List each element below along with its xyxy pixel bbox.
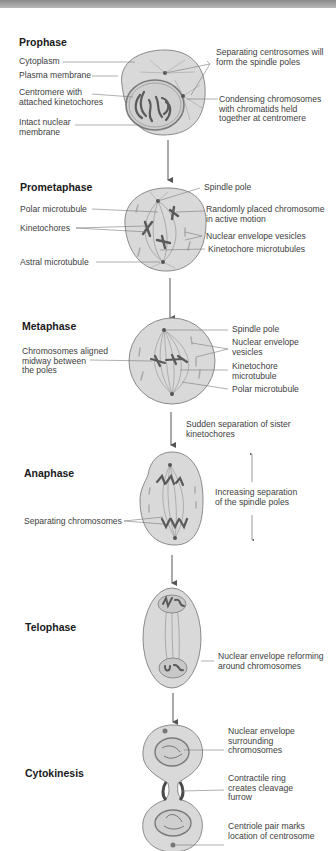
stage-title-metaphase: Metaphase bbox=[22, 320, 76, 332]
stage-title-anaphase: Anaphase bbox=[24, 467, 74, 479]
label-increasing-separation: Increasing separation of the spindle pol… bbox=[215, 488, 297, 507]
label-intact-nuclear-membrane: Intact nuclear membrane bbox=[19, 118, 71, 137]
label-kinetochores: Kinetochores bbox=[20, 224, 70, 234]
label-condensing-chromosomes: Condensing chromosomes with chromatids h… bbox=[219, 95, 321, 124]
label-spindle-pole: Spindle pole bbox=[232, 325, 279, 335]
label-nuclear-envelope-reforming: Nuclear envelope reforming around chromo… bbox=[218, 652, 324, 671]
label-centromere-kinetochores: Centromere with attached kinetochores bbox=[19, 88, 103, 107]
label-cytoplasm: Cytoplasm bbox=[19, 57, 60, 67]
label-polar-microtubule: Polar microtubule bbox=[20, 205, 87, 215]
prometaphase-cell bbox=[125, 188, 206, 271]
label-chromosomes-aligned: Chromosomes aligned midway between the p… bbox=[22, 347, 108, 376]
stage-title-prophase: Prophase bbox=[19, 36, 67, 48]
label-nuclear-envelope-vesicles: Nuclear envelope vesicles bbox=[206, 232, 306, 242]
label-sudden-separation: Sudden separation of sister kinetochores bbox=[186, 420, 291, 439]
label-plasma-membrane: Plasma membrane bbox=[19, 71, 91, 81]
label-spindle-pole: Spindle pole bbox=[204, 183, 251, 193]
label-astral-microtubule: Astral microtubule bbox=[20, 258, 89, 268]
label-kinetochore-microtubule: Kinetochore microtubule bbox=[232, 362, 278, 381]
label-randomly-placed-chromosome: Randomly placed chromosome in active mot… bbox=[206, 205, 324, 224]
label-polar-microtubule: Polar microtubule bbox=[232, 385, 299, 395]
label-kinetochore-microtubules: Kinetochore microtubules bbox=[208, 245, 305, 255]
anaphase-cell bbox=[140, 452, 203, 545]
label-nuclear-envelope-vesicles: Nuclear envelope vesicles bbox=[232, 338, 299, 357]
stage-title-telophase: Telophase bbox=[25, 621, 76, 633]
cytokinesis-cell bbox=[143, 725, 203, 851]
telophase-cell bbox=[143, 588, 201, 688]
label-separating-chromosomes: Separating chromosomes bbox=[24, 517, 122, 527]
stage-title-cytokinesis: Cytokinesis bbox=[25, 767, 84, 779]
stage-title-prometaphase: Prometaphase bbox=[20, 181, 92, 193]
label-nuclear-envelope-surrounding: Nuclear envelope surrounding chromosomes bbox=[228, 727, 295, 756]
label-contractile-ring: Contractile ring creates cleavage furrow bbox=[228, 774, 293, 803]
label-centriole-pair: Centriole pair marks location of centros… bbox=[228, 822, 314, 841]
label-separating-centrosomes: Separating centrosomes will form the spi… bbox=[216, 48, 323, 67]
